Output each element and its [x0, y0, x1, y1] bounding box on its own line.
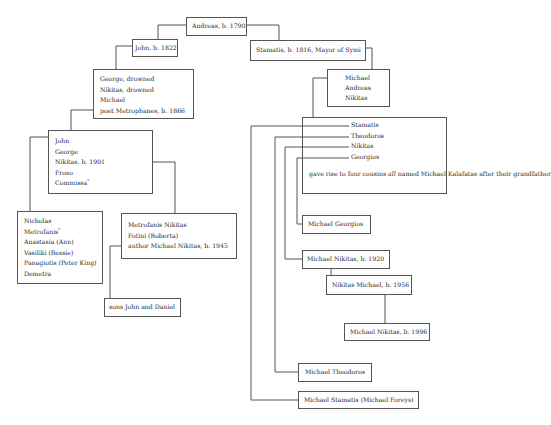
person-michael-theodoros: Michael Theodoros	[298, 363, 372, 382]
metrophanes-children-box: John George Nikitas, b. 1901 Froso Commi…	[48, 130, 153, 194]
person-label: Andreas, b. 1790	[192, 21, 245, 32]
child-andreas: Andreas	[344, 83, 371, 94]
cousins-note-line2: Michael Kalafatas after their grandfathe…	[421, 170, 551, 177]
child-fotini: Fotini (Roberta)	[128, 231, 236, 242]
child-author-michael: author Michael Nikitas, b. 1945	[128, 241, 236, 252]
person-label: Michael Theodoros	[305, 367, 365, 378]
child-commissa: Commissa*	[55, 178, 152, 189]
person-label: Nikitas Michael, b. 1956	[332, 280, 409, 291]
child-michael: Michael	[344, 73, 370, 84]
person-label: Michael Georgios	[308, 219, 363, 230]
person-john-1822: John, b. 1822	[132, 39, 178, 57]
cousins-note-line1: gave rise to four cousins all named	[309, 170, 419, 177]
child-metrophanes: poet Metrophanes, b. 1866	[100, 106, 193, 117]
child-nikitas-1901: Nikitas, b. 1901	[55, 157, 152, 168]
person-andreas-1790: Andreas, b. 1790	[186, 17, 247, 36]
person-label: Michael Nikitas, b. 1920	[307, 254, 384, 265]
child-metrofanis: Metrofanis*	[24, 227, 102, 238]
footnote-mark: *	[87, 178, 89, 183]
child-george: George	[55, 147, 152, 158]
person-michael-stamatis: Michael Stamatis (Michael Foreys)	[298, 391, 419, 409]
child-froso: Froso	[55, 168, 152, 179]
footnote-mark: *	[58, 227, 60, 232]
child-theodoros: Theodoros	[350, 131, 384, 142]
child-vasiliki: Vasiliki (Bessie)	[24, 248, 102, 259]
person-label: Michael Nikitas, b. 1996	[350, 327, 427, 338]
child-michael: Michael	[100, 95, 193, 106]
person-michael-georgios: Michael Georgios	[302, 215, 371, 234]
child-panagiotis: Panagiotis (Peter King)	[24, 258, 102, 269]
child-nikitas: Nikitas	[344, 93, 367, 104]
child-george: George, drowned	[100, 74, 193, 85]
child-demetra: Demetra	[24, 269, 102, 280]
person-nikitas-michael-1956: Nikitas Michael, b. 1956	[326, 275, 412, 295]
person-stamatis-1816: Stamatis, b. 1816, Mayor of Symi	[250, 40, 366, 61]
person-michael-nikitas-1920: Michael Nikitas, b. 1920	[302, 250, 390, 269]
child-nikitas: Nikitas, drowned	[100, 85, 193, 96]
cousins-note: gave rise to four cousins all named Mich…	[308, 169, 551, 180]
child-nikitas: Nikitas	[350, 141, 373, 152]
child-stamatis: Stamatis	[350, 120, 379, 131]
person-label: Stamatis, b. 1816, Mayor of Symi	[256, 45, 361, 56]
person-label: Michael Stamatis (Michael Foreys)	[304, 395, 414, 406]
person-label: John, b. 1822	[135, 43, 177, 54]
person-michael-nikitas-1996: Michael Nikitas, b. 1996	[344, 323, 430, 341]
child-john: John	[55, 136, 152, 147]
child-nicholas: Nicholas	[24, 216, 102, 227]
nikitas-1901-children-box: Metrofanis Nikitas Fotini (Roberta) auth…	[121, 213, 237, 259]
michael-1945-children-box: sons John and Daniel	[104, 298, 181, 317]
child-anastasia: Anastasia (Ann)	[24, 237, 102, 248]
child-georgios: Georgios	[350, 152, 379, 163]
person-label: sons John and Daniel	[109, 302, 175, 313]
john-1901-children-box: Nicholas Metrofanis* Anastasia (Ann) Vas…	[17, 211, 103, 284]
john-1822-children-box: George, drowned Nikitas, drowned Michael…	[93, 69, 194, 119]
child-metrofanis-nikitas: Metrofanis Nikitas	[128, 220, 236, 231]
